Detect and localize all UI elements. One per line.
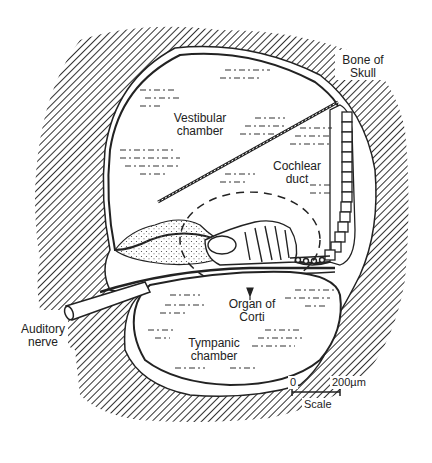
label-cochlear-duct: Cochlear duct [262, 160, 332, 186]
label-line: Corti [220, 311, 284, 324]
label-auditory-nerve: Auditory nerve [12, 323, 74, 349]
label-tympanic-chamber: Tympanic chamber [178, 337, 250, 363]
label-organ-of-corti: Organ of Corti [220, 298, 284, 324]
label-bone-of-skull: Bone of Skull [338, 54, 388, 80]
label-line: nerve [12, 336, 74, 349]
scale-end-label: 200µm [330, 376, 368, 389]
label-vestibular-chamber: Vestibular chamber [160, 112, 240, 138]
label-line: chamber [178, 350, 250, 363]
label-line: duct [262, 173, 332, 186]
scale-start-label: 0 [288, 376, 298, 389]
label-line: chamber [160, 125, 240, 138]
tympanic-chamber [134, 272, 341, 385]
label-line: Skull [340, 67, 386, 80]
scale-label: Scale [302, 398, 334, 411]
